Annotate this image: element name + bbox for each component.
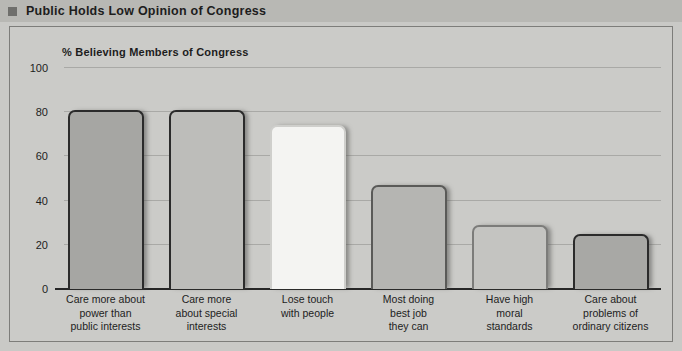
bar bbox=[270, 125, 346, 289]
square-bullet-icon bbox=[8, 7, 17, 16]
x-axis-label-line: interests bbox=[148, 320, 266, 334]
bar bbox=[371, 185, 447, 289]
x-axis-label: Care aboutproblems ofordinary citizens bbox=[552, 293, 670, 334]
y-axis-tick-label: 40 bbox=[36, 195, 48, 207]
title-bar: Public Holds Low Opinion of Congress bbox=[0, 0, 682, 22]
page-title: Public Holds Low Opinion of Congress bbox=[26, 4, 266, 18]
bar bbox=[68, 110, 144, 289]
bar bbox=[169, 110, 245, 289]
chart-screenshot: Public Holds Low Opinion of Congress % B… bbox=[0, 0, 682, 351]
y-axis-tick-label: 20 bbox=[36, 239, 48, 251]
x-axis-label-line: problems of bbox=[552, 307, 670, 321]
y-axis-tick-label: 80 bbox=[36, 106, 48, 118]
y-axis-tick-label: 60 bbox=[36, 150, 48, 162]
bar bbox=[573, 234, 649, 289]
bar bbox=[472, 225, 548, 289]
bar-series bbox=[55, 68, 661, 289]
plot-area: 020406080100 bbox=[55, 68, 661, 289]
x-axis-labels: Care more aboutpower thanpublic interest… bbox=[55, 293, 661, 341]
y-axis-tick-label: 100 bbox=[30, 62, 48, 74]
x-axis-label-line: ordinary citizens bbox=[552, 320, 670, 334]
chart-subtitle: % Believing Members of Congress bbox=[62, 46, 249, 58]
x-axis-label-line: Care about bbox=[552, 293, 670, 307]
chart-panel: % Believing Members of Congress 02040608… bbox=[9, 26, 673, 342]
